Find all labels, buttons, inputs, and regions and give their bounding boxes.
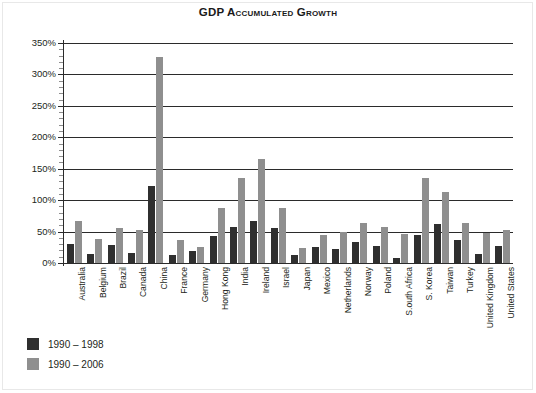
bar bbox=[422, 178, 429, 263]
x-axis-tick-label: Netherlands bbox=[344, 267, 353, 313]
bar bbox=[442, 192, 449, 263]
x-axis-tick-label: Norway bbox=[364, 267, 373, 296]
bar bbox=[299, 248, 306, 263]
x-axis-tick-label: Ireland bbox=[262, 267, 271, 293]
bar bbox=[483, 233, 490, 263]
bar bbox=[177, 240, 184, 263]
bar-group bbox=[495, 43, 510, 263]
bar bbox=[189, 251, 196, 263]
x-axis-tick-label: Turkey bbox=[466, 267, 475, 293]
bar bbox=[475, 254, 482, 263]
legend-swatch bbox=[27, 358, 39, 370]
x-axis-tick-label: Hong Kong bbox=[221, 267, 230, 310]
bar-group bbox=[373, 43, 388, 263]
bar bbox=[67, 244, 74, 263]
x-axis-tick-label: Belgium bbox=[99, 267, 108, 298]
bar bbox=[495, 246, 502, 263]
bar bbox=[258, 159, 265, 263]
bar bbox=[462, 223, 469, 263]
y-axis-tick-label: 350% bbox=[0, 38, 56, 48]
bar bbox=[279, 208, 286, 263]
x-axis-tick-label: Mexico bbox=[323, 267, 332, 294]
y-axis-tick-label: 50% bbox=[0, 227, 56, 237]
x-axis-tick-label: Taiwan bbox=[446, 267, 455, 294]
y-axis-tick-label: 100% bbox=[0, 195, 56, 205]
bar-group bbox=[148, 43, 163, 263]
x-axis-tick-label: France bbox=[180, 267, 189, 294]
bar bbox=[352, 242, 359, 263]
bar bbox=[75, 221, 82, 263]
bar bbox=[360, 223, 367, 263]
bar-group bbox=[414, 43, 429, 263]
y-axis-tick-label: 150% bbox=[0, 164, 56, 174]
x-axis-tick-label: Australia bbox=[78, 267, 87, 300]
bar-group bbox=[312, 43, 327, 263]
bar-group bbox=[210, 43, 225, 263]
chart-title: GDP Accumulated Growth bbox=[0, 6, 536, 18]
legend-label: 1990 – 2006 bbox=[48, 359, 104, 370]
x-axis-tick-label: Canada bbox=[139, 267, 148, 297]
bar bbox=[332, 249, 339, 263]
x-axis-tick-label: Japan bbox=[303, 267, 312, 290]
bar bbox=[291, 255, 298, 263]
x-axis-tick-label: India bbox=[241, 267, 250, 286]
bar bbox=[210, 236, 217, 263]
bar-group bbox=[230, 43, 245, 263]
bar bbox=[503, 230, 510, 263]
legend-label: 1990 – 1998 bbox=[48, 339, 104, 350]
x-axis-tick-label: Israel bbox=[282, 267, 291, 288]
bar bbox=[434, 224, 441, 263]
bar-group bbox=[271, 43, 286, 263]
bar bbox=[95, 239, 102, 264]
bar bbox=[250, 221, 257, 263]
legend-item: 1990 – 2006 bbox=[27, 354, 104, 374]
bar-group bbox=[87, 43, 102, 263]
bar bbox=[197, 247, 204, 263]
bar bbox=[340, 232, 347, 263]
bar-group bbox=[332, 43, 347, 263]
y-axis-tick-label: 250% bbox=[0, 101, 56, 111]
bar bbox=[169, 255, 176, 263]
chart-page: GDP Accumulated Growth 350%300%250%200%1… bbox=[0, 0, 536, 393]
bar bbox=[320, 235, 327, 263]
y-axis-tick-label: 0% bbox=[0, 258, 56, 268]
bar bbox=[116, 228, 123, 263]
x-axis-tick-label: S. Korea bbox=[425, 267, 434, 300]
bar-group bbox=[169, 43, 184, 263]
x-axis-tick-label: United Kingdom bbox=[486, 267, 495, 328]
plot-area bbox=[64, 43, 513, 263]
bar bbox=[230, 227, 237, 263]
y-axis-tick-label: 200% bbox=[0, 132, 56, 142]
x-axis-tick-label: United States bbox=[507, 267, 516, 319]
chart-legend: 1990 – 19981990 – 2006 bbox=[27, 334, 104, 374]
x-axis-tick-label: S.outh Africa bbox=[405, 267, 414, 316]
bar bbox=[271, 228, 278, 263]
x-axis-tick-label: Poland bbox=[384, 267, 393, 294]
bar bbox=[393, 258, 400, 263]
bar bbox=[87, 254, 94, 263]
bar bbox=[373, 246, 380, 263]
x-axis-tick-label: China bbox=[160, 267, 169, 289]
bar bbox=[156, 57, 163, 263]
bar-group bbox=[393, 43, 408, 263]
y-axis-tick-label: 300% bbox=[0, 69, 56, 79]
x-axis-tick-label: Germany bbox=[201, 267, 210, 302]
bar bbox=[414, 235, 421, 263]
bar-group bbox=[67, 43, 82, 263]
bar-group bbox=[189, 43, 204, 263]
bar bbox=[454, 240, 461, 263]
bar-group bbox=[291, 43, 306, 263]
x-axis-tick-label: Brazil bbox=[119, 267, 128, 289]
x-axis-labels: AustraliaBelgiumBrazilCanadaChinaFranceG… bbox=[64, 264, 513, 334]
bar-group bbox=[250, 43, 265, 263]
bar bbox=[312, 247, 319, 263]
bar bbox=[218, 208, 225, 263]
legend-item: 1990 – 1998 bbox=[27, 334, 104, 354]
bar-group bbox=[108, 43, 123, 263]
bar bbox=[128, 253, 135, 263]
bar bbox=[238, 178, 245, 263]
bar bbox=[136, 230, 143, 263]
bar bbox=[401, 234, 408, 263]
bar-group bbox=[454, 43, 469, 263]
bar-group bbox=[128, 43, 143, 263]
